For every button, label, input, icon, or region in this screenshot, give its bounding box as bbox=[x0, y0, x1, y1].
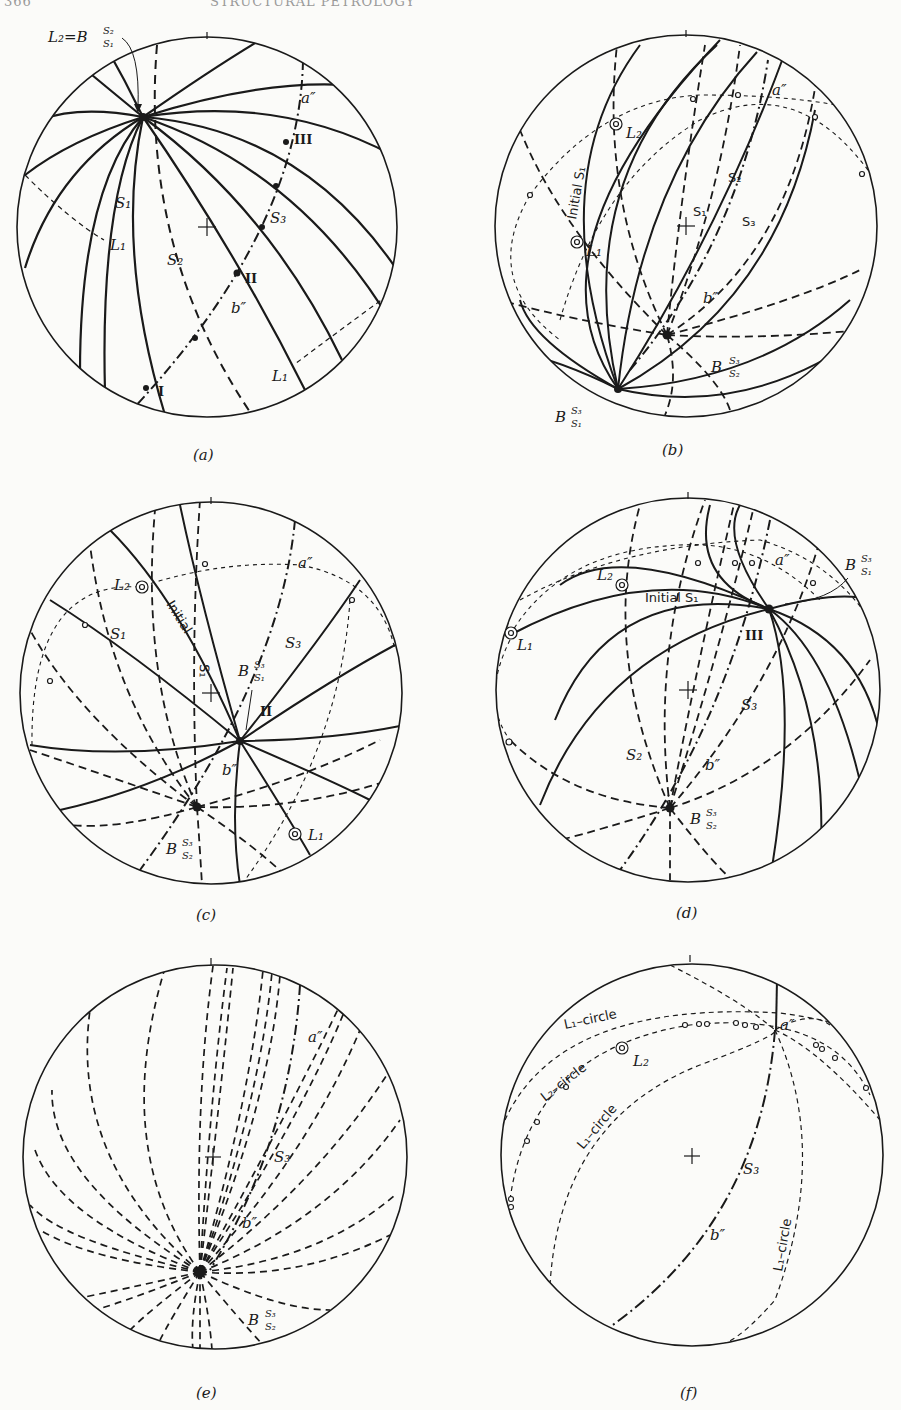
svg-text:a″: a″ bbox=[780, 1016, 795, 1034]
svg-text:S₃: S₃ bbox=[254, 659, 265, 670]
caption-c: (c) bbox=[196, 906, 216, 924]
svg-text:S₁: S₁ bbox=[110, 625, 126, 643]
label-l2: L₂ bbox=[596, 566, 613, 584]
svg-text:S₃: S₃ bbox=[742, 214, 755, 229]
svg-text:S₂: S₂ bbox=[729, 368, 740, 379]
svg-text:S₂: S₂ bbox=[265, 1321, 276, 1332]
svg-text:S₃: S₃ bbox=[729, 355, 740, 366]
svg-text:a″: a″ bbox=[775, 551, 790, 569]
svg-text:B: B bbox=[710, 358, 722, 376]
svg-text:S₃: S₃ bbox=[265, 1308, 276, 1319]
svg-text:II: II bbox=[245, 271, 257, 286]
svg-text:S₂: S₂ bbox=[706, 820, 717, 831]
stereonet-figure-panel: L₂=B S₂ S₁ S₁ S₂ S₃ L₁ L₁ a″ b″ I II III… bbox=[0, 0, 901, 1410]
svg-text:S₁: S₁ bbox=[571, 418, 582, 429]
label-l1: L₁ bbox=[585, 242, 602, 260]
caption-e: (e) bbox=[196, 1384, 217, 1402]
svg-text:S₁: S₁ bbox=[693, 204, 706, 219]
label-l1-circle: L₁–circle bbox=[574, 1101, 620, 1152]
svg-text:a″: a″ bbox=[298, 554, 313, 572]
svg-text:S₂: S₂ bbox=[626, 746, 642, 764]
caption-f: (f) bbox=[680, 1384, 697, 1402]
label-s3: S₃ bbox=[270, 209, 286, 227]
svg-text:S₂: S₂ bbox=[103, 25, 114, 36]
label-l1: L₁ bbox=[109, 236, 126, 254]
svg-text:a″: a″ bbox=[772, 81, 787, 99]
label-a-double-prime: a″ bbox=[301, 89, 316, 107]
stereonet-d: L₂ L₁ Initial S₁ S₂ S₃ a″ b″ III B S₃ S₁… bbox=[495, 492, 880, 922]
svg-text:B: B bbox=[844, 556, 856, 574]
svg-text:II: II bbox=[260, 704, 272, 719]
label-l2: L₂ bbox=[632, 1052, 649, 1070]
svg-text:b″: b″ bbox=[222, 761, 238, 779]
svg-text:a″: a″ bbox=[308, 1028, 323, 1046]
svg-text:b″: b″ bbox=[242, 1214, 258, 1232]
svg-text:S₁: S₁ bbox=[861, 566, 872, 577]
label-l1-circle: L₁–circle bbox=[770, 1217, 794, 1272]
svg-text:S₃: S₃ bbox=[861, 553, 872, 564]
svg-text:S₂: S₂ bbox=[182, 850, 193, 861]
pole-l2 bbox=[139, 113, 147, 121]
svg-text:S₃: S₃ bbox=[706, 807, 717, 818]
label-initial-s1: Initial S₁ bbox=[645, 590, 699, 605]
stereonet-c: L₂ Initial S₁ S₁ S₃ a″ b″ II B S₃ S₁ B S… bbox=[20, 497, 402, 924]
label-l2: L₂ bbox=[113, 576, 130, 594]
svg-text:b″: b″ bbox=[710, 1226, 726, 1244]
svg-text:S₃: S₃ bbox=[571, 405, 582, 416]
caption-d: (d) bbox=[676, 904, 697, 922]
label-l2: L₂ bbox=[625, 124, 642, 142]
svg-text:III: III bbox=[745, 628, 763, 643]
svg-text:b″: b″ bbox=[703, 289, 719, 307]
svg-text:S₁: S₁ bbox=[197, 664, 212, 678]
stereonet-a: L₂=B S₂ S₁ S₁ S₂ S₃ L₁ L₁ a″ b″ I II III… bbox=[17, 25, 397, 464]
label-b-double-prime: b″ bbox=[231, 299, 247, 317]
stereonet-b: Initial S₁ L₂ L₁ S₁ S₂ S₃ a″ b″ B S₃ S₂ … bbox=[495, 30, 877, 459]
svg-text:B: B bbox=[165, 840, 177, 858]
svg-text:S₂: S₂ bbox=[728, 170, 741, 185]
svg-text:III: III bbox=[294, 132, 312, 147]
svg-text:S₁: S₁ bbox=[254, 672, 265, 683]
caption-b: (b) bbox=[662, 441, 683, 459]
svg-text:B: B bbox=[554, 408, 566, 426]
svg-text:S₃: S₃ bbox=[741, 696, 757, 714]
svg-text:S₃: S₃ bbox=[274, 1148, 290, 1166]
svg-text:S₃: S₃ bbox=[182, 837, 193, 848]
svg-text:b″: b″ bbox=[705, 756, 721, 774]
label-l1: L₁ bbox=[516, 636, 533, 654]
label-l2-eq-b: L₂=B bbox=[47, 28, 88, 46]
label-initial: Initial bbox=[163, 598, 195, 636]
stereonet-f: L₂ L₁–circle L₂–circle L₁–circle L₁–circ… bbox=[501, 955, 883, 1402]
caption-a: (a) bbox=[193, 446, 214, 464]
label-l1: L₁ bbox=[307, 826, 324, 844]
svg-text:S₃: S₃ bbox=[285, 634, 301, 652]
svg-text:S₃: S₃ bbox=[743, 1160, 759, 1178]
stereonet-e: a″ S₃ b″ B S₃ S₂ (e) bbox=[23, 958, 407, 1402]
svg-text:B: B bbox=[689, 810, 701, 828]
svg-text:I: I bbox=[158, 384, 164, 399]
label-l1-circle: L₁–circle bbox=[563, 1006, 618, 1032]
svg-text:B: B bbox=[247, 1311, 259, 1329]
svg-text:B: B bbox=[237, 662, 249, 680]
svg-text:S₁: S₁ bbox=[103, 38, 114, 49]
label-s2: S₂ bbox=[167, 251, 183, 269]
label-s1: S₁ bbox=[115, 194, 131, 212]
label-l1: L₁ bbox=[271, 367, 288, 385]
